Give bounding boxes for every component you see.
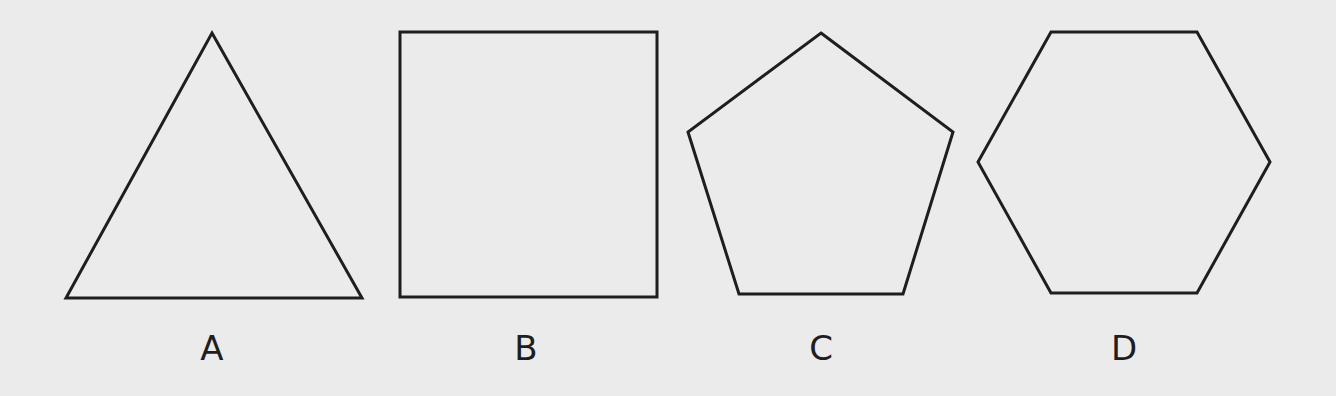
square-shape	[400, 32, 657, 297]
triangle-shape	[66, 33, 362, 298]
figure-canvas: A B C D	[0, 0, 1336, 396]
label-c: C	[809, 328, 833, 368]
label-b: B	[514, 328, 537, 368]
label-a: A	[200, 328, 223, 368]
hexagon-shape	[978, 32, 1270, 293]
label-d: D	[1111, 328, 1137, 368]
pentagon-shape	[688, 33, 953, 294]
